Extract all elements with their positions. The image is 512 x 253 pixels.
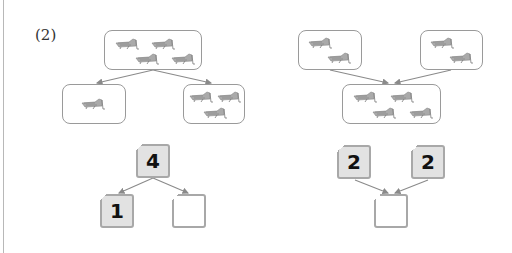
grasshopper-icon (372, 106, 396, 120)
grasshopper-icon (308, 36, 332, 50)
left-number-left: 1 (100, 194, 134, 228)
right-number-left: 2 (337, 145, 371, 179)
left-picture-right (183, 84, 245, 124)
left-number-answer-box[interactable] (172, 194, 206, 228)
right-picture-bottom (342, 84, 441, 124)
grasshopper-icon (217, 90, 241, 104)
right-picture-right (420, 30, 483, 70)
grasshopper-icon (449, 51, 473, 65)
left-picture-left (62, 84, 126, 124)
right-number-answer-box[interactable] (374, 194, 408, 228)
grasshopper-icon (151, 37, 175, 51)
grasshopper-icon (203, 106, 227, 120)
grasshopper-icon (353, 90, 377, 104)
grasshopper-icon (430, 36, 454, 50)
left-picture-top (104, 30, 202, 70)
grasshopper-icon (189, 90, 213, 104)
grasshopper-icon (135, 52, 159, 66)
grasshopper-icon (409, 106, 433, 120)
right-number-right: 2 (411, 145, 445, 179)
grasshopper-icon (327, 51, 351, 65)
grasshopper-icon (171, 52, 195, 66)
grasshopper-icon (390, 90, 414, 104)
left-number-top: 4 (136, 144, 170, 178)
grasshopper-icon (81, 97, 105, 111)
grasshopper-icon (115, 37, 139, 51)
right-picture-left (298, 30, 362, 70)
